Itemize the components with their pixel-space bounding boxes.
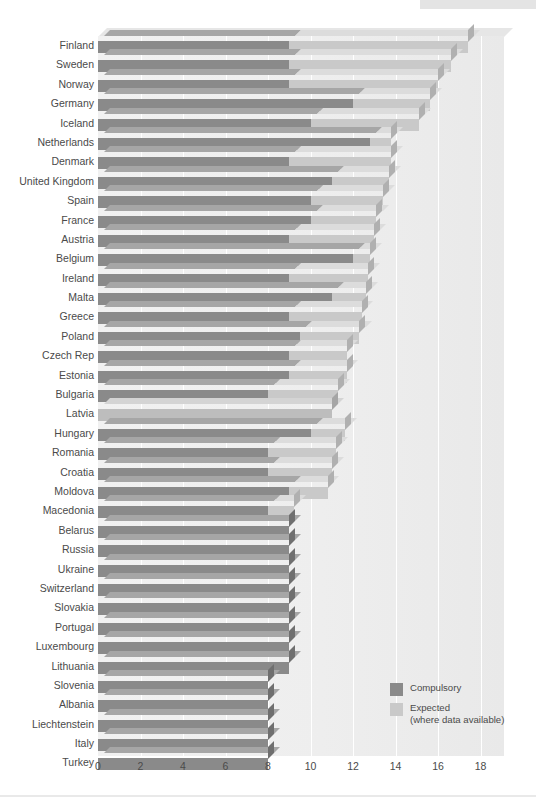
bar-top-face (104, 127, 382, 133)
row-label: Romania (0, 446, 94, 458)
bar-top-face (104, 747, 280, 753)
x-axis: 024681012141618 (0, 760, 536, 780)
legend-item-compulsory: Compulsory (390, 682, 530, 696)
bar-side-face (268, 741, 274, 759)
row-label: Malta (0, 291, 94, 303)
bar-top-face (376, 127, 403, 133)
row-label: Italy (0, 737, 94, 749)
bar-top-face (317, 108, 431, 114)
x-tick-label: 12 (338, 760, 368, 772)
bar-top-face (104, 263, 301, 269)
x-tick-label: 4 (168, 760, 198, 772)
x-tick-label: 16 (423, 760, 453, 772)
bar-top-face (274, 495, 306, 501)
row-label: Spain (0, 194, 94, 206)
row-label: Austria (0, 233, 94, 245)
row-label: Germany (0, 97, 94, 109)
row-label: Greece (0, 310, 94, 322)
bar-top-face (104, 360, 301, 366)
bar-top-face (104, 398, 344, 404)
row-label: Lithuania (0, 660, 94, 672)
bar-top-face (104, 146, 301, 152)
bar-top-face (104, 340, 301, 346)
bar-chart: FinlandSwedenNorwayGermanyIcelandNetherl… (0, 0, 536, 807)
row-label: Iceland (0, 117, 94, 129)
row-label: Slovenia (0, 679, 94, 691)
row-label: Moldova (0, 485, 94, 497)
bar-top-face (295, 69, 450, 75)
x-tick-label: 10 (296, 760, 326, 772)
bar-top-face (104, 709, 280, 715)
page-bottom-rule (0, 795, 536, 797)
row-label: Belarus (0, 524, 94, 536)
bar-top-face (104, 243, 365, 249)
row-label: Norway (0, 78, 94, 90)
bar-side-face (391, 140, 397, 158)
bar-top-face (104, 321, 312, 327)
legend-swatch-compulsory (390, 683, 403, 696)
row-label: Croatia (0, 466, 94, 478)
bar-top-face (104, 534, 301, 540)
x-tick-label: 2 (126, 760, 156, 772)
row-label: Albania (0, 698, 94, 710)
row-label: Netherlands (0, 136, 94, 148)
bar-top-face (104, 651, 301, 657)
bar-top-face (104, 49, 301, 55)
bar-top-face (104, 689, 280, 695)
x-tick-label: 0 (83, 760, 113, 772)
row-label: Latvia (0, 407, 94, 419)
page-corner-block (420, 0, 536, 9)
bar-top-face (295, 224, 386, 230)
row-label: Poland (0, 330, 94, 342)
row-label: Estonia (0, 369, 94, 381)
chart-legend: Compulsory Expected (where data availabl… (390, 682, 530, 731)
row-label: Ireland (0, 272, 94, 284)
row-label: Switzerland (0, 582, 94, 594)
bar-top-face (104, 108, 323, 114)
bar-side-face (468, 24, 474, 42)
bar-top-face (104, 592, 301, 598)
legend-item-expected: Expected (where data available) (390, 702, 530, 725)
row-label: Luxembourg (0, 640, 94, 652)
row-label: Finland (0, 39, 94, 51)
row-label: Belgium (0, 252, 94, 264)
bar-top-face (104, 631, 301, 637)
bar-top-face (104, 495, 280, 501)
bar-top-face (104, 224, 301, 230)
bar-top-face (104, 515, 301, 521)
row-label: Liechtenstein (0, 718, 94, 730)
x-tick-label: 6 (211, 760, 241, 772)
bar-top-face (104, 554, 301, 560)
bar-top-face (104, 205, 323, 211)
bar-top-face (104, 185, 323, 191)
bar-top-face (104, 418, 323, 424)
bar-top-face (104, 728, 280, 734)
row-label: Russia (0, 543, 94, 555)
row-label: Czech Rep (0, 349, 94, 361)
bar-top-face (104, 437, 280, 443)
row-label: Slovakia (0, 601, 94, 613)
legend-swatch-expected (390, 703, 403, 716)
row-label: Ukraine (0, 563, 94, 575)
bar-side-face (289, 586, 295, 604)
legend-sublabel-expected: (where data available) (410, 714, 504, 726)
legend-label-compulsory: Compulsory (410, 682, 461, 694)
row-label: Hungary (0, 427, 94, 439)
bar-top-face (104, 573, 301, 579)
row-label: Portugal (0, 621, 94, 633)
bar-top-face (104, 301, 301, 307)
x-tick-label: 14 (381, 760, 411, 772)
bar-top-face (295, 30, 480, 36)
row-label: France (0, 214, 94, 226)
bar-top-face (104, 379, 280, 385)
bar-rows: FinlandSwedenNorwayGermanyIcelandNetherl… (0, 36, 536, 773)
bar-top-face (104, 670, 280, 676)
bar-top-face (295, 49, 463, 55)
row-label: Denmark (0, 155, 94, 167)
bar-top-face (104, 30, 301, 36)
x-tick-label: 8 (253, 760, 283, 772)
bar-top-face (104, 166, 344, 172)
bar-top-face (295, 146, 403, 152)
x-tick-label: 18 (466, 760, 496, 772)
bar-top-face (104, 282, 344, 288)
